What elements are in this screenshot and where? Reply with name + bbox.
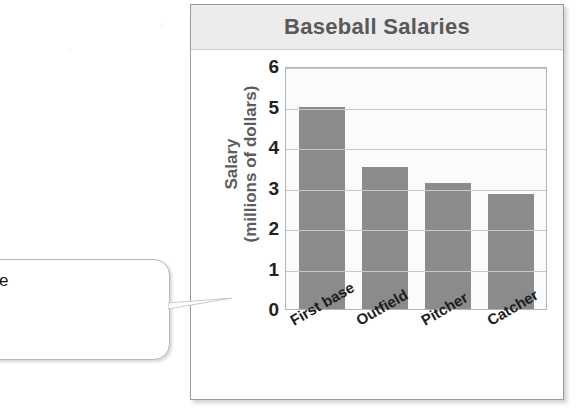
bar-series	[286, 68, 546, 309]
gridline-4	[286, 149, 546, 150]
gridline-2	[286, 230, 546, 231]
gridline-3	[286, 190, 546, 191]
callout-balloon: propriate scale e data is 0 to lion.	[0, 259, 170, 360]
callout-line-3: lion.	[0, 316, 155, 339]
callout-pointer-icon	[168, 298, 232, 314]
x-axis-tick-labels: First baseOutfieldPitcherCatcher	[285, 314, 547, 394]
y-tick-2: 2	[251, 218, 279, 240]
y-axis-tick-labels: 6543210	[251, 67, 279, 310]
chart-card: Baseball Salaries Salary (millions of do…	[190, 4, 564, 400]
y-tick-4: 4	[251, 137, 279, 159]
gridline-5	[286, 109, 546, 110]
y-tick-5: 5	[251, 96, 279, 118]
y-tick-1: 1	[251, 258, 279, 280]
y-tick-0: 0	[251, 299, 279, 321]
bar-first-base	[299, 107, 345, 310]
plot-area	[285, 67, 547, 310]
gridline-6	[286, 68, 546, 69]
chart-title: Baseball Salaries	[284, 14, 470, 40]
chart-title-band: Baseball Salaries	[191, 5, 563, 50]
y-axis-title-line1: Salary	[222, 54, 241, 274]
plot-wrapper: Salary (millions of dollars) 6543210 Fir…	[191, 49, 563, 399]
y-tick-6: 6	[251, 56, 279, 78]
callout-line-1: propriate scale	[0, 270, 155, 293]
y-tick-3: 3	[251, 177, 279, 199]
gridline-1	[286, 271, 546, 272]
callout-line-2: e data is 0 to	[0, 293, 155, 316]
